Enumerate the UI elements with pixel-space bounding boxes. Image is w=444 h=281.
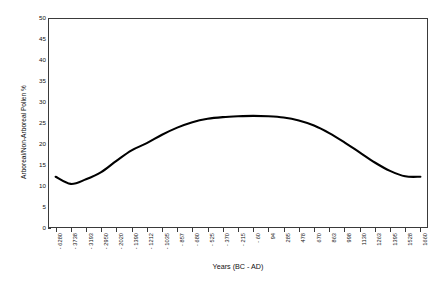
y-tick-label: 25 — [30, 120, 46, 126]
x-tick-label: 1660 — [423, 233, 429, 246]
x-tick-label: 1528 — [408, 233, 414, 246]
x-tick-label: - 680 — [195, 233, 201, 246]
x-tick-mark — [177, 228, 178, 232]
x-tick-label: - 6280 — [58, 233, 64, 249]
x-tick-mark — [253, 228, 254, 232]
x-tick-label: 670 — [317, 233, 323, 242]
plot-area — [48, 18, 428, 228]
x-tick-mark — [132, 228, 133, 232]
x-tick-label: - 3193 — [89, 233, 95, 249]
x-tick-label: - 60 — [256, 233, 262, 243]
x-tick-mark — [116, 228, 117, 232]
x-tick-label: 285 — [286, 233, 292, 242]
x-tick-label: 1395 — [393, 233, 399, 246]
y-axis-title-container: Arboreal/Non-Arboreal Pollen % — [8, 30, 28, 200]
y-axis-ticks: 05101520253035404550 — [26, 18, 46, 228]
x-tick-mark — [208, 228, 209, 232]
x-tick-label: - 525 — [210, 233, 216, 246]
x-tick-mark — [314, 228, 315, 232]
x-tick-label: - 370 — [225, 233, 231, 246]
y-tick-label: 0 — [30, 225, 46, 231]
y-tick-label: 15 — [30, 162, 46, 168]
x-tick-label: - 215 — [241, 233, 247, 246]
y-tick-label: 10 — [30, 183, 46, 189]
y-tick-label: 30 — [30, 99, 46, 105]
x-tick-label: 863 — [332, 233, 338, 242]
x-tick-mark — [101, 228, 102, 232]
y-tick-label: 20 — [30, 141, 46, 147]
chart-container: Arboreal/Non-Arboreal Pollen % 051015202… — [0, 0, 444, 281]
x-tick-mark — [420, 228, 421, 232]
x-tick-mark — [390, 228, 391, 232]
y-tick-label: 40 — [30, 57, 46, 63]
x-tick-mark — [71, 228, 72, 232]
x-tick-mark — [147, 228, 148, 232]
x-tick-label: 478 — [301, 233, 307, 242]
x-tick-label: 94 — [271, 233, 277, 239]
x-tick-label: - 1390 — [134, 233, 140, 249]
x-tick-label: - 857 — [180, 233, 186, 246]
x-tick-mark — [238, 228, 239, 232]
x-tick-mark — [329, 228, 330, 232]
x-tick-mark — [375, 228, 376, 232]
x-tick-label: 998 — [347, 233, 353, 242]
x-tick-mark — [344, 228, 345, 232]
y-tick-label: 35 — [30, 78, 46, 84]
x-tick-mark — [162, 228, 163, 232]
y-tick-label: 45 — [30, 36, 46, 42]
x-tick-label: - 3738 — [73, 233, 79, 249]
x-tick-mark — [299, 228, 300, 232]
x-tick-label: 1263 — [377, 233, 383, 246]
x-tick-label: - 2020 — [119, 233, 125, 249]
x-tick-mark — [56, 228, 57, 232]
y-tick-label: 5 — [30, 204, 46, 210]
y-tick-label: 50 — [30, 15, 46, 21]
x-axis-title: Years (BC - AD) — [48, 262, 428, 271]
x-axis-ticks: - 6280- 3738- 3193- 2950- 2020- 1390- 12… — [48, 228, 428, 280]
x-tick-mark — [284, 228, 285, 232]
x-tick-label: 1130 — [362, 233, 368, 245]
x-tick-mark — [86, 228, 87, 232]
x-tick-label: - 1035 — [165, 233, 171, 249]
x-tick-mark — [268, 228, 269, 232]
x-tick-mark — [192, 228, 193, 232]
x-tick-label: - 1212 — [149, 233, 155, 249]
x-tick-mark — [223, 228, 224, 232]
x-tick-mark — [405, 228, 406, 232]
x-tick-label: - 2950 — [104, 233, 110, 249]
x-tick-mark — [360, 228, 361, 232]
